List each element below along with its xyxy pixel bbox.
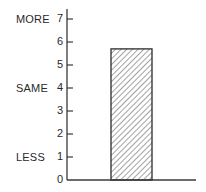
y-tick-label: 2	[53, 128, 63, 139]
y-tick-label: 3	[53, 105, 63, 116]
label-same: SAME	[16, 83, 48, 94]
y-tick-label: 1	[53, 151, 63, 162]
label-less: LESS	[16, 152, 45, 163]
y-tick-label: 7	[53, 13, 63, 24]
bar-value	[111, 49, 152, 180]
y-tick-label: 5	[53, 59, 63, 70]
chart-canvas	[0, 0, 206, 192]
y-tick-label: 4	[53, 82, 63, 93]
y-tick-label: 6	[53, 36, 63, 47]
y-axis-ticks	[67, 19, 73, 157]
bar-chart: 01234567 MORE SAME LESS	[0, 0, 206, 192]
y-tick-label: 0	[53, 174, 63, 185]
label-more: MORE	[16, 14, 50, 25]
